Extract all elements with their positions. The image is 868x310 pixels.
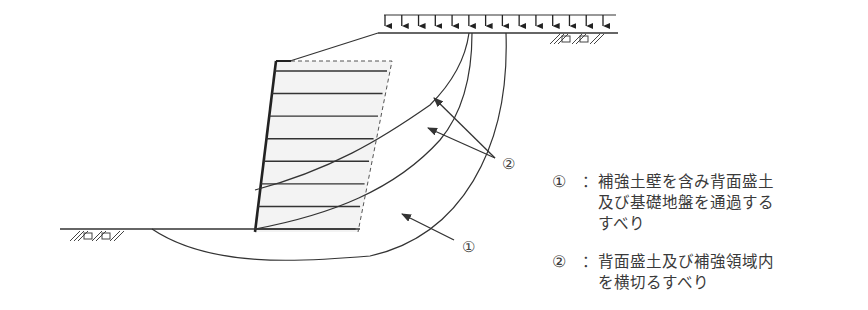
legend-item-2: ② ： 背面盛土及び補強領域内 を横切るすべり bbox=[552, 252, 774, 294]
legend-line: 補強土壁を含み背面盛土 bbox=[598, 172, 774, 193]
legend-marker-2: ② bbox=[552, 252, 582, 294]
legend-line: 背面盛土及び補強領域内 bbox=[598, 252, 774, 273]
legend-separator: ： bbox=[582, 252, 598, 294]
legend-line: すべり bbox=[598, 214, 774, 235]
label-marker-1: ① bbox=[462, 238, 475, 256]
toe-ground-hatch bbox=[70, 231, 124, 241]
legend-line: 及び基礎地盤を通過する bbox=[598, 193, 774, 214]
surcharge-load-arrows bbox=[385, 15, 603, 26]
crest-ground-hatch bbox=[550, 34, 604, 44]
label-marker-2: ② bbox=[502, 155, 515, 173]
label-2-arrow-upper bbox=[434, 98, 495, 158]
legend-text-2: 背面盛土及び補強領域内 を横切るすべり bbox=[598, 252, 774, 294]
legend-text-1: 補強土壁を含み背面盛土 及び基礎地盤を通過する すべり bbox=[598, 172, 774, 235]
label-1-arrow bbox=[402, 214, 454, 240]
legend-item-1: ① ： 補強土壁を含み背面盛土 及び基礎地盤を通過する すべり bbox=[552, 172, 774, 235]
legend-marker-1: ① bbox=[552, 172, 582, 235]
backfill-slope-line bbox=[290, 33, 378, 61]
legend-separator: ： bbox=[582, 172, 598, 235]
legend: ① ： 補強土壁を含み背面盛土 及び基礎地盤を通過する すべり ② ： 背面盛土… bbox=[552, 172, 774, 310]
legend-line: を横切るすべり bbox=[598, 273, 774, 294]
